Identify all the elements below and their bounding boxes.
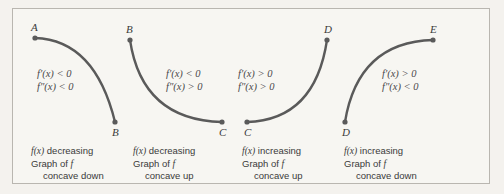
caption-4-line3: concave down bbox=[344, 170, 417, 183]
caption-4-line2: Graph of f bbox=[344, 158, 417, 171]
caption-3-line3: concave up bbox=[242, 170, 303, 183]
second-derivative-3: f″(x) > 0 bbox=[238, 80, 275, 93]
caption-1-rest: decreasing bbox=[44, 145, 93, 156]
point-label-b-start: B bbox=[126, 24, 133, 35]
first-derivative-1: f′(x) < 0 bbox=[37, 67, 74, 80]
second-derivative-4: f″(x) < 0 bbox=[382, 80, 419, 93]
point-label-d-end: D bbox=[324, 24, 332, 35]
caption-3-pre: Graph of bbox=[242, 158, 282, 169]
caption-4-rest: increasing bbox=[357, 145, 403, 156]
caption-1-pre: Graph of bbox=[31, 158, 71, 169]
point-label-e: E bbox=[430, 24, 437, 35]
second-derivative-1: f″(x) < 0 bbox=[37, 80, 74, 93]
point-label-c-end: C bbox=[219, 127, 226, 138]
caption-4-fn: f(x) bbox=[344, 146, 357, 156]
first-derivative-4: f′(x) > 0 bbox=[382, 67, 419, 80]
caption-1-line2: Graph of f bbox=[31, 158, 104, 171]
caption-4: f(x) increasing Graph of f concave down bbox=[344, 145, 417, 183]
derivative-block-1: f′(x) < 0 f″(x) < 0 bbox=[37, 67, 74, 93]
caption-2-line3: concave up bbox=[133, 170, 195, 183]
caption-1-line3: concave down bbox=[31, 170, 104, 183]
caption-3: f(x) increasing Graph of f concave up bbox=[242, 145, 303, 183]
caption-2-pre: Graph of bbox=[133, 158, 173, 169]
caption-1-line1: f(x) decreasing bbox=[31, 145, 104, 158]
caption-3-line1: f(x) increasing bbox=[242, 145, 303, 158]
caption-4-f: f bbox=[384, 159, 387, 169]
caption-2: f(x) decreasing Graph of f concave up bbox=[133, 145, 195, 183]
first-derivative-2: f′(x) < 0 bbox=[166, 67, 203, 80]
caption-4-pre: Graph of bbox=[344, 158, 384, 169]
caption-3-fn: f(x) bbox=[242, 146, 255, 156]
derivative-block-2: f′(x) < 0 f″(x) > 0 bbox=[166, 67, 203, 93]
point-label-a: A bbox=[31, 22, 38, 33]
caption-3-line2: Graph of f bbox=[242, 158, 303, 171]
caption-2-f: f bbox=[173, 159, 176, 169]
caption-2-fn: f(x) bbox=[133, 146, 146, 156]
concavity-figure: A B B C C D D E f′(x) < 0 f″(x) < 0 f′(x… bbox=[0, 0, 504, 194]
caption-2-rest: decreasing bbox=[146, 145, 195, 156]
caption-2-line2: Graph of f bbox=[133, 158, 195, 171]
caption-1-fn: f(x) bbox=[31, 146, 44, 156]
caption-2-line1: f(x) decreasing bbox=[133, 145, 195, 158]
derivative-block-3: f′(x) > 0 f″(x) > 0 bbox=[238, 67, 275, 93]
derivative-block-4: f′(x) > 0 f″(x) < 0 bbox=[382, 67, 419, 93]
first-derivative-3: f′(x) > 0 bbox=[238, 67, 275, 80]
point-label-c-start: C bbox=[244, 127, 251, 138]
caption-4-line1: f(x) increasing bbox=[344, 145, 417, 158]
caption-3-rest: increasing bbox=[255, 145, 301, 156]
caption-3-f: f bbox=[282, 159, 285, 169]
point-label-d-start: D bbox=[342, 127, 350, 138]
caption-1-f: f bbox=[71, 159, 74, 169]
caption-1: f(x) decreasing Graph of f concave down bbox=[31, 145, 104, 183]
point-label-b-end: B bbox=[112, 127, 119, 138]
second-derivative-2: f″(x) > 0 bbox=[166, 80, 203, 93]
